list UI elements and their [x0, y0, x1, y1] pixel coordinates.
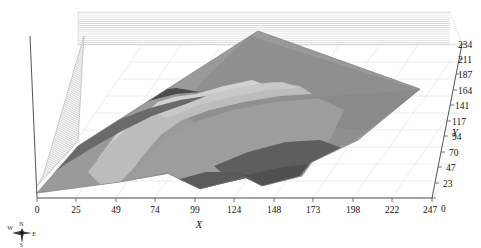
x-axis-title: X [195, 219, 203, 230]
y-tick-label: 141 [455, 101, 470, 111]
y-tick-label: 0 [441, 204, 446, 214]
x-tick-label: 0 [35, 205, 40, 215]
y-tick-label: 117 [452, 117, 466, 127]
x-tick-label: 124 [227, 205, 242, 215]
x-tick-label: 198 [346, 205, 361, 215]
x-tick-label: 49 [111, 205, 121, 215]
y-tick-label: 47 [446, 163, 456, 173]
z-axis-line [30, 36, 37, 198]
x-tick-label: 74 [150, 205, 160, 215]
x-tick-label: 99 [190, 205, 200, 215]
x-tick-label: 25 [71, 205, 81, 215]
plot-canvas: 0 25 49 74 99 124 148 173 198 222 247 [0, 0, 481, 248]
y-tick-label: 23 [443, 179, 453, 189]
y-tick-label: 187 [458, 70, 473, 80]
x-axis-ticks: 0 25 49 74 99 124 148 173 198 222 247 [35, 198, 438, 215]
x-tick-label: 222 [385, 205, 400, 215]
compass-east-label: E [32, 231, 36, 237]
x-tick-label: 247 [423, 205, 438, 215]
compass-north-label: N [19, 221, 24, 227]
y-tick-label: 211 [458, 55, 472, 65]
y-tick-label: 234 [458, 40, 473, 50]
y-tick-label: 164 [458, 86, 473, 96]
x-tick-label: 148 [267, 205, 282, 215]
compass-rose: N S E W [7, 221, 36, 248]
x-tick-label: 173 [306, 205, 321, 215]
surface-plot-figure: 0 25 49 74 99 124 148 173 198 222 247 [0, 0, 481, 248]
y-tick-label: 70 [449, 148, 459, 158]
surface-3d [37, 31, 420, 193]
compass-south-label: S [20, 242, 23, 248]
compass-west-label: W [7, 225, 13, 231]
